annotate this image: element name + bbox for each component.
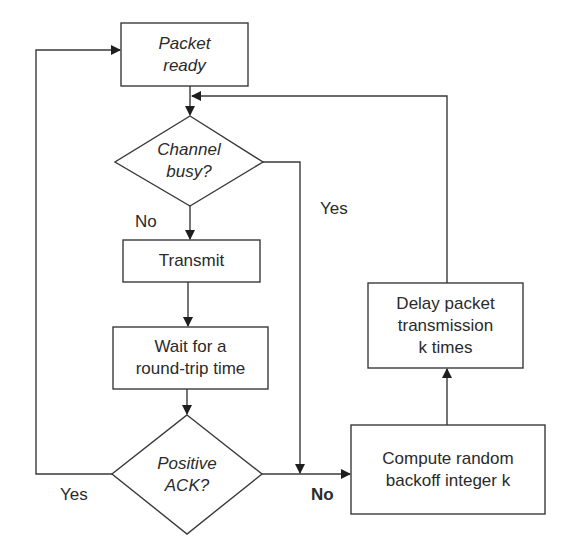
- channel-busy-label: Channel busy?: [115, 116, 263, 206]
- packet-ready-label: Packet ready: [121, 23, 248, 86]
- wait-line2: round-trip time: [136, 358, 246, 380]
- edge-label-channel-no: No: [135, 212, 157, 232]
- packet-ready-line1: Packet: [159, 33, 211, 55]
- channel-busy-line1: Channel: [157, 139, 220, 161]
- positive-ack-label: Positive ACK?: [112, 415, 262, 534]
- compute-backoff-line2: backoff integer k: [386, 470, 510, 492]
- wait-label: Wait for a round-trip time: [113, 327, 268, 389]
- edge-label-ack-yes: Yes: [60, 485, 88, 505]
- delay-label: Delay packet transmission k times: [368, 283, 523, 368]
- packet-ready-line2: ready: [163, 55, 206, 77]
- compute-backoff-line1: Compute random: [382, 448, 513, 470]
- transmit-line1: Transmit: [159, 250, 225, 272]
- arrow-channel-yes: [263, 162, 300, 473]
- positive-ack-line1: Positive: [157, 453, 217, 475]
- transmit-label: Transmit: [123, 240, 260, 282]
- channel-busy-line2: busy?: [166, 161, 211, 183]
- delay-line2: transmission: [398, 315, 493, 337]
- edge-label-channel-yes: Yes: [320, 199, 348, 219]
- arrow-ack-yes: [36, 50, 120, 474]
- positive-ack-line2: ACK?: [165, 475, 209, 497]
- wait-line1: Wait for a: [154, 336, 226, 358]
- compute-backoff-label: Compute random backoff integer k: [351, 425, 545, 514]
- delay-line1: Delay packet: [396, 293, 494, 315]
- delay-line3: k times: [419, 337, 473, 359]
- edge-label-ack-no: No: [311, 485, 334, 505]
